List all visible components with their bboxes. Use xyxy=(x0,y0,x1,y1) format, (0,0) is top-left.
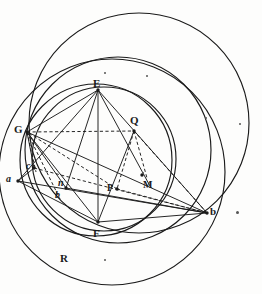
vertex-D-pt xyxy=(205,211,208,214)
vertex-c-pt xyxy=(32,166,35,169)
vertex-a-pt xyxy=(16,179,19,182)
circle-main-through-EGF xyxy=(20,84,172,236)
segment-E-n xyxy=(66,90,98,188)
segment-G-D xyxy=(27,132,207,213)
paper-speck xyxy=(205,117,207,119)
dashed-segment-Q-P xyxy=(117,131,134,189)
paper-speck xyxy=(104,72,106,74)
label-R: R xyxy=(60,253,68,264)
paper-speck xyxy=(104,259,106,261)
paper-speck xyxy=(239,123,241,125)
paper-speck xyxy=(142,172,144,174)
circle-outer-large xyxy=(29,13,249,233)
diagram-canvas xyxy=(0,0,262,294)
label-P: P xyxy=(107,183,113,193)
label-M: M xyxy=(143,180,152,190)
segment-Q-F xyxy=(98,131,134,222)
label-F: F xyxy=(93,228,100,239)
dashed-segment-G-Q xyxy=(27,131,134,132)
label-G: G xyxy=(14,124,23,135)
vertex-n-pt xyxy=(64,186,67,189)
label-Q: Q xyxy=(130,115,139,126)
geometric-diagram: EGQMPFRacnbb xyxy=(0,0,262,294)
label-E: E xyxy=(93,78,100,89)
vertex-Q-pt xyxy=(132,129,135,132)
dashed-segment-P-G xyxy=(27,132,117,189)
label-c: c xyxy=(26,161,30,171)
segment-n-D xyxy=(66,188,207,213)
paper-speck xyxy=(236,211,239,214)
vertex-P-pt xyxy=(115,187,118,190)
label-n: n xyxy=(58,178,64,188)
vertex-F-pt xyxy=(96,220,99,223)
label-a: a xyxy=(6,174,11,184)
label-D: b xyxy=(210,206,216,217)
vertex-points-group xyxy=(16,88,208,223)
vertex-G-pt xyxy=(25,130,28,133)
circles-group xyxy=(0,13,249,285)
paper-speck xyxy=(146,75,148,77)
label-b: b xyxy=(55,190,60,200)
